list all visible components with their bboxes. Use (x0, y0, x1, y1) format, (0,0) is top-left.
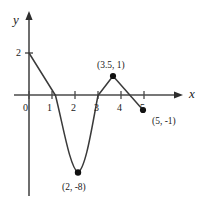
x-tick-label-0: 0 (23, 103, 28, 113)
marked-points (75, 73, 146, 176)
annotation-peak: (3.5, 1) (97, 61, 125, 71)
x-tick-label-5: 5 (140, 103, 145, 113)
x-tick-label-4: 4 (117, 103, 122, 113)
x-axis-label: x (189, 87, 195, 100)
coordinate-plot (0, 0, 208, 209)
point-peak (110, 73, 116, 79)
y-axis-label: y (13, 13, 19, 26)
annotation-minimum: (2, -8) (62, 183, 86, 193)
x-tick-label-2: 2 (71, 103, 76, 113)
point-minimum (75, 169, 81, 175)
annotation-endpoint: (5, -1) (152, 117, 176, 127)
x-tick-label-3: 3 (94, 103, 99, 113)
graph-figure: y x 2 0 1 2 3 4 5 (3.5, 1) (2, -8) (5, -… (0, 0, 208, 209)
x-tick-label-1: 1 (47, 103, 52, 113)
y-tick-label-2: 2 (16, 48, 21, 58)
